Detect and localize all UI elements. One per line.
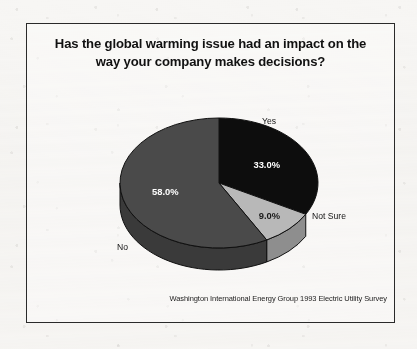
pie-chart: 33.0% 9.0% 58.0% Yes Not Sure No — [26, 23, 395, 323]
pie-category-label-not-sure: Not Sure — [312, 211, 346, 221]
pie-chart-svg: 33.0% 9.0% 58.0% Yes Not Sure No — [26, 23, 395, 323]
chart-source-note: Washington International Energy Group 19… — [38, 294, 387, 303]
scanned-chart-page: Has the global warming issue had an impa… — [0, 0, 417, 349]
pie-top-faces — [120, 118, 318, 248]
pie-value-label-yes: 33.0% — [253, 159, 280, 170]
pie-category-label-no: No — [117, 242, 128, 252]
pie-category-label-yes: Yes — [262, 116, 276, 126]
pie-value-label-no: 58.0% — [152, 186, 179, 197]
pie-value-label-not-sure: 9.0% — [259, 210, 281, 221]
